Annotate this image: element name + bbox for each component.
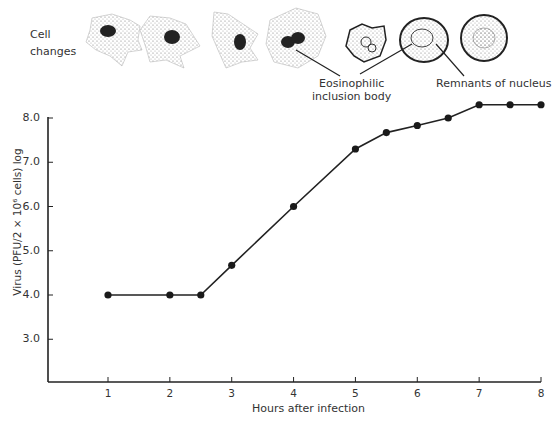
data-point (506, 101, 513, 108)
y-tick-label: 3.0 (10, 332, 40, 345)
x-tick-label: 7 (469, 387, 489, 399)
data-point (445, 114, 452, 121)
data-point (414, 122, 421, 129)
data-point (104, 291, 111, 298)
data-point (166, 291, 173, 298)
line-chart (0, 0, 555, 422)
data-point (537, 101, 544, 108)
data-point (197, 291, 204, 298)
series-line (108, 105, 541, 295)
x-axis-label: Hours after infection (252, 402, 365, 415)
data-point (383, 129, 390, 136)
y-tick-label: 8.0 (10, 111, 40, 124)
x-tick-label: 2 (160, 387, 180, 399)
x-tick-label: 8 (531, 387, 551, 399)
data-point (228, 262, 235, 269)
x-tick-label: 4 (284, 387, 304, 399)
x-tick-label: 1 (98, 387, 118, 399)
data-point (290, 203, 297, 210)
x-tick-label: 6 (407, 387, 427, 399)
data-point (476, 101, 483, 108)
y-axis-label: Virus (PFU/2 × 10⁶ cells) log (11, 137, 23, 307)
x-tick-label: 3 (222, 387, 242, 399)
x-tick-label: 5 (345, 387, 365, 399)
data-point (352, 145, 359, 152)
